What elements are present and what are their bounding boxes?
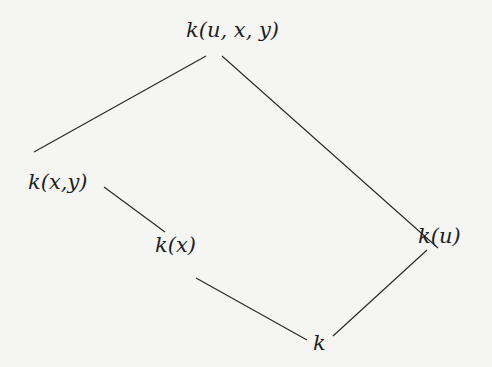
node-k-u: k(u) — [418, 226, 461, 247]
edge-kxy-kx — [104, 187, 165, 232]
edge-kuxy-kxy — [34, 56, 206, 152]
edge-kuxy-ku — [222, 56, 438, 248]
node-k-x: k(x) — [155, 235, 196, 256]
node-k-x-y: k(x,y) — [28, 172, 88, 193]
edge-k-ku — [333, 250, 427, 336]
node-k-u-x-y: k(u, x, y) — [186, 20, 279, 41]
edge-kx-k — [196, 278, 307, 340]
node-k: k — [313, 333, 326, 354]
